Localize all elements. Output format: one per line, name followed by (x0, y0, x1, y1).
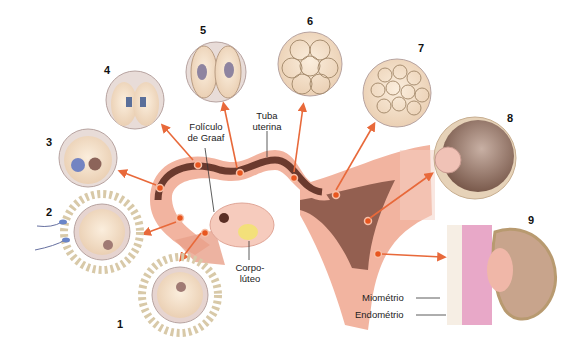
stage-1-oocyte (142, 257, 218, 333)
graafian-follicle (219, 213, 229, 223)
stage-number-7: 7 (418, 42, 424, 54)
stage-5-two-cell (186, 42, 246, 102)
label-line: de Graaf (180, 132, 232, 143)
embryo-development-diagram (0, 0, 566, 358)
label-line: Tuba (246, 110, 288, 121)
corpus-luteum (238, 224, 258, 240)
stage-number-6: 6 (307, 15, 313, 27)
fallopian-tube-label: Tuba uterina (246, 110, 288, 132)
myometrium-label: Miométrio (362, 292, 418, 303)
stage-number-5: 5 (200, 24, 206, 36)
stage-6-morula (278, 32, 342, 96)
label-line: Corpo- (230, 262, 270, 273)
label-line: uterina (246, 121, 288, 132)
stage-4-cleavage (106, 71, 164, 129)
ovary (210, 203, 274, 247)
stage-3-zygote (59, 129, 117, 187)
stage-number-9: 9 (528, 214, 534, 226)
corpus-luteum-label: Corpo- lúteo (230, 262, 270, 284)
stage-number-1: 1 (117, 318, 123, 330)
stage-8-blastocyst (434, 117, 516, 199)
stage-number-8: 8 (507, 112, 513, 124)
graafian-follicle-label: Folículo de Graaf (180, 121, 232, 143)
label-line: Folículo (180, 121, 232, 132)
stage-number-2: 2 (46, 206, 52, 218)
stage-number-3: 3 (46, 136, 52, 148)
stage-number-4: 4 (104, 64, 110, 76)
endometrium-label: Endométrio (355, 309, 417, 320)
stage-9-implantation (447, 225, 556, 325)
label-line: lúteo (230, 273, 270, 284)
stage-7-late-morula (363, 59, 431, 127)
